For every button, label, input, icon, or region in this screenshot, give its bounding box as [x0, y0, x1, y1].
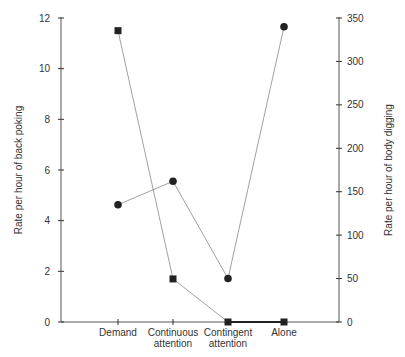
category-label: attention [154, 338, 192, 349]
right-axis-tick-label: 50 [347, 273, 359, 284]
right-axis-tick-label: 250 [347, 99, 364, 110]
circle-marker [224, 275, 232, 283]
series-line [118, 31, 173, 279]
left-axis-tick-label: 2 [44, 266, 50, 277]
category-label: Demand [99, 327, 137, 338]
left-axis-tick-label: 4 [44, 215, 50, 226]
right-axis-tick-label: 0 [347, 317, 353, 328]
left-axis-tick-label: 8 [44, 114, 50, 125]
right-axis-tick-label: 200 [347, 143, 364, 154]
circle-marker [169, 177, 177, 185]
square-marker [115, 27, 122, 34]
series-line [173, 181, 228, 278]
right-axis-tick-label: 350 [347, 13, 364, 24]
category-label: Continuous [148, 327, 199, 338]
left-axis-tick-label: 0 [44, 317, 50, 328]
series-line [228, 27, 284, 279]
category-label: attention [209, 338, 247, 349]
square-marker [170, 275, 177, 282]
left-axis-tick-label: 10 [39, 63, 51, 74]
right-axis-title: Rate per hour of body digging [383, 104, 394, 236]
left-axis-tick-label: 12 [39, 13, 51, 24]
circle-marker [114, 201, 122, 209]
series-line [118, 181, 173, 204]
series-line [173, 279, 228, 322]
square-marker [281, 319, 288, 326]
square-marker [225, 319, 232, 326]
right-axis-tick-label: 300 [347, 56, 364, 67]
left-axis-title: Rate per hour of back poking [13, 106, 24, 234]
right-axis-tick-label: 100 [347, 230, 364, 241]
category-label: Contingent [204, 327, 253, 338]
dual-axis-line-chart: 024681012050100150200250300350Rate per h… [0, 0, 405, 357]
category-label: Alone [271, 327, 297, 338]
circle-marker [280, 23, 288, 31]
left-axis-tick-label: 6 [44, 165, 50, 176]
right-axis-tick-label: 150 [347, 186, 364, 197]
